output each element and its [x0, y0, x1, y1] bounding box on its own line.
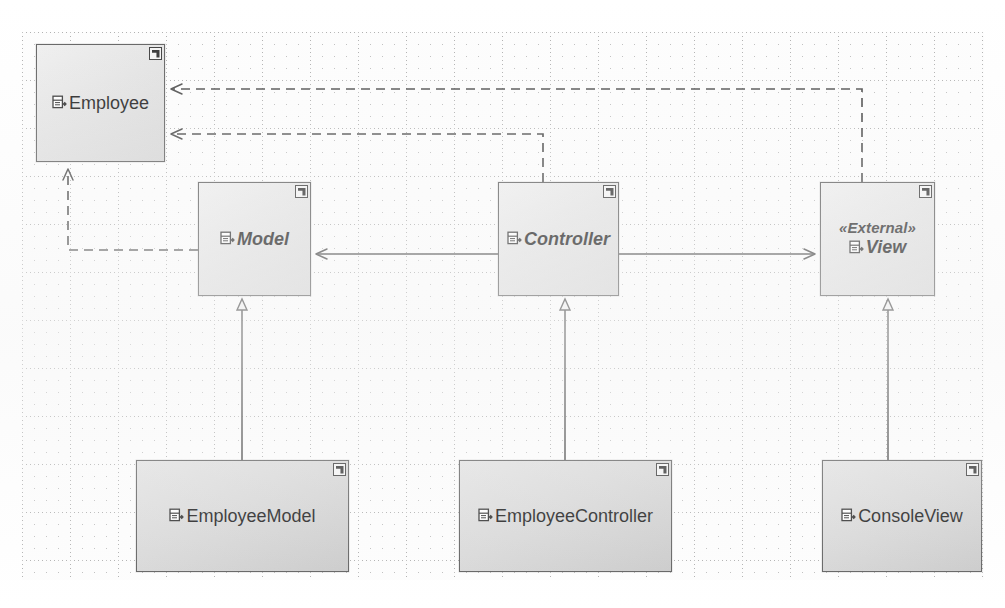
- class-name: Employee: [69, 93, 149, 114]
- class-name-line: Model: [220, 229, 289, 250]
- class-name: ConsoleView: [858, 506, 963, 527]
- class-name-line: ConsoleView: [841, 506, 963, 527]
- uml-class-icon: [52, 95, 67, 111]
- corner-badge-icon: [656, 463, 669, 476]
- class-name-line: EmployeeController: [478, 506, 653, 527]
- class-name-line: Controller: [507, 229, 610, 250]
- corner-badge-icon: [919, 185, 932, 198]
- class-box-view[interactable]: «External» View: [820, 182, 935, 296]
- class-name-line: EmployeeModel: [169, 506, 315, 527]
- class-name: View: [866, 237, 906, 258]
- corner-badge-icon: [966, 463, 979, 476]
- uml-class-icon: [478, 508, 493, 524]
- class-name-line: View: [849, 237, 906, 258]
- class-box-employeemodel[interactable]: EmployeeModel: [136, 460, 349, 572]
- class-name: EmployeeController: [495, 506, 653, 527]
- class-box-controller[interactable]: Controller: [498, 182, 619, 296]
- class-box-employeecontroller[interactable]: EmployeeController: [459, 460, 672, 572]
- class-name: EmployeeModel: [186, 506, 315, 527]
- class-stereotype: «External»: [839, 220, 916, 237]
- relationship-dependency-view-employee[interactable]: [172, 89, 862, 182]
- uml-class-icon: [507, 231, 522, 247]
- corner-badge-icon: [333, 463, 346, 476]
- corner-badge-icon: [603, 185, 616, 198]
- diagram-canvas: Employee Model: [0, 0, 1005, 608]
- class-box-model[interactable]: Model: [198, 182, 311, 296]
- corner-badge-icon: [149, 47, 162, 60]
- class-name: Model: [237, 229, 289, 250]
- class-box-employee[interactable]: Employee: [36, 44, 165, 162]
- class-name-line: Employee: [52, 93, 149, 114]
- uml-class-icon: [849, 240, 864, 256]
- uml-class-icon: [220, 231, 235, 247]
- class-box-consoleview[interactable]: ConsoleView: [822, 460, 982, 572]
- relationship-dependency-model-employee[interactable]: [68, 170, 198, 250]
- uml-class-icon: [841, 508, 856, 524]
- relationship-dependency-controller-employee[interactable]: [172, 134, 543, 182]
- uml-class-icon: [169, 508, 184, 524]
- class-name: Controller: [524, 229, 610, 250]
- corner-badge-icon: [295, 185, 308, 198]
